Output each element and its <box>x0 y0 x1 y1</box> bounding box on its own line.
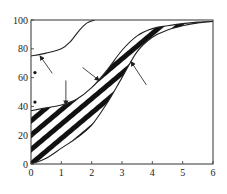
y-tick-label: 60 <box>18 72 28 83</box>
x-tick-label: 4 <box>150 167 155 178</box>
arrow-icon <box>131 62 146 85</box>
x-tick-label: 0 <box>29 167 34 178</box>
x-tick-label: 5 <box>180 167 185 178</box>
x-tick-label: 1 <box>59 167 64 178</box>
hatched-band <box>31 21 213 164</box>
markers <box>33 71 36 104</box>
y-tick-label: 80 <box>18 43 28 54</box>
y-tick-label: 0 <box>23 159 28 170</box>
y-tick-label: 40 <box>18 101 28 112</box>
upper-thin-curve-line <box>31 20 95 56</box>
data-point-marker <box>33 100 36 103</box>
arrow-icon <box>40 56 52 73</box>
y-tick-label: 100 <box>13 15 28 26</box>
hatched-region <box>31 21 213 164</box>
x-tick-label: 6 <box>211 167 216 178</box>
x-tick-label: 2 <box>89 167 94 178</box>
data-point-marker <box>33 71 36 74</box>
arrow-icon <box>83 68 100 81</box>
y-tick-label: 20 <box>18 130 28 141</box>
chart: 0123456 020406080100 <box>0 0 227 194</box>
x-tick-label: 3 <box>120 167 125 178</box>
